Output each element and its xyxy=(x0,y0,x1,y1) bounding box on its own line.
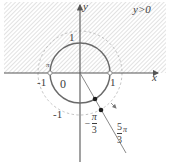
point-on-outer-circle xyxy=(99,108,104,113)
direction-arrow-icon xyxy=(111,103,116,108)
intersection-marker-right xyxy=(108,71,112,75)
fraction-denominator: 3 xyxy=(117,135,122,146)
angle-label-five-pi-over-three: 5 3 π xyxy=(117,122,127,145)
intersection-marker-left xyxy=(48,71,52,75)
origin-label: 0 xyxy=(60,78,66,90)
axis-y-label: y xyxy=(83,1,88,12)
pi-symbol: π xyxy=(122,122,127,134)
minus-sign: − xyxy=(84,118,92,129)
figure-container: y>0 y x 1 0 -1 1 -1 π − π 3 5 3 π xyxy=(0,0,170,167)
pi-point-label: π xyxy=(46,62,50,69)
unit-circle-diagram xyxy=(0,0,170,167)
fraction-denominator: 3 xyxy=(92,125,97,136)
x-tick-label-negative-one: -1 xyxy=(37,77,46,88)
angle-label-negative-pi-over-three: − π 3 xyxy=(84,112,97,135)
y-tick-label-negative-one: -1 xyxy=(53,109,62,120)
point-on-unit-circle xyxy=(93,97,98,102)
fraction-pi-over-three: π 3 xyxy=(92,112,97,135)
axis-x-label: x xyxy=(152,72,157,83)
region-label-y-positive: y>0 xyxy=(133,4,151,15)
fraction-numerator: π xyxy=(92,112,97,123)
y-tick-label-positive-one: 1 xyxy=(69,32,75,43)
x-tick-label-positive-one: 1 xyxy=(110,77,116,88)
